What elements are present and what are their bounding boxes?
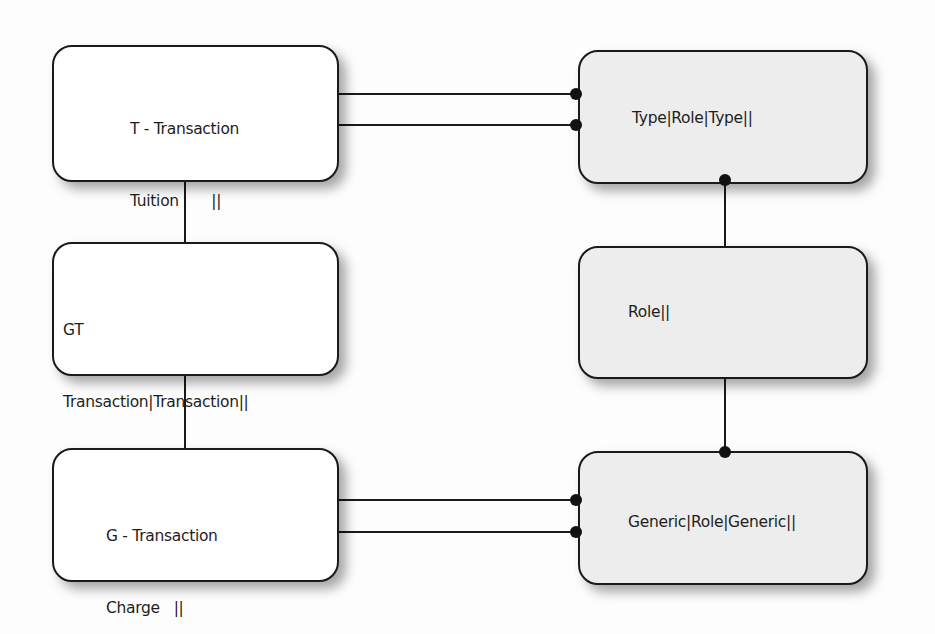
entity-role[interactable]: Role|| — [578, 246, 868, 379]
entity-t-transaction[interactable]: T - Transaction Tuition || Cash || Trans… — [52, 45, 339, 182]
entity-type-role-type[interactable]: Type|Role|Type|| — [578, 50, 868, 184]
entity-attribute: Transaction|Transaction|| — [63, 390, 255, 414]
entity-attribute: Charge || — [106, 596, 218, 620]
entity-title: GT — [63, 318, 255, 342]
entity-label: Role|| — [628, 300, 670, 324]
entity-g-transaction[interactable]: G - Transaction Charge || Payment|| — [52, 448, 339, 582]
entity-generic-role-generic[interactable]: Generic|Role|Generic|| — [578, 451, 868, 585]
entity-label: Type|Role|Type|| — [632, 106, 753, 130]
entity-gt[interactable]: GT Transaction|Transaction|| Charge |Tui… — [52, 242, 339, 376]
entity-attribute: Tuition || — [130, 189, 239, 213]
entity-title: T - Transaction — [130, 117, 239, 141]
entity-title: G - Transaction — [106, 524, 218, 548]
diagram-canvas: T - Transaction Tuition || Cash || Trans… — [0, 0, 935, 634]
entity-label: Generic|Role|Generic|| — [628, 510, 796, 534]
